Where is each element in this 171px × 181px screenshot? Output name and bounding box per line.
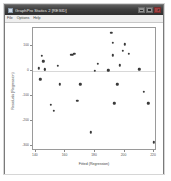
y-axis-tick <box>30 45 32 46</box>
close-button[interactable] <box>154 7 161 13</box>
y-axis-tick-label: -300 <box>22 143 29 147</box>
data-point <box>39 78 41 80</box>
data-point <box>57 64 59 66</box>
x-axis-tick-label: 140 <box>32 153 38 157</box>
data-point <box>112 54 114 56</box>
x-axis-tick-label: 180 <box>91 153 97 157</box>
window-controls <box>138 7 161 13</box>
data-point <box>110 32 112 34</box>
x-axis-title: Fitted (Regression) <box>32 162 156 166</box>
desktop-background: GraphPro Statics 2 [RESID] File Options … <box>0 0 171 181</box>
window-title: GraphPro Statics 2 [RESID] <box>15 8 138 13</box>
data-point <box>41 54 43 56</box>
x-axis-tick <box>35 150 36 152</box>
maximize-button[interactable] <box>146 7 153 13</box>
data-point <box>42 60 44 62</box>
x-axis-tick <box>94 150 95 152</box>
data-point <box>112 41 114 43</box>
data-point <box>128 53 130 55</box>
data-point <box>153 141 155 143</box>
data-point <box>50 103 52 105</box>
window-client-area: 140160180200220 -300-200-1000100 Fitted … <box>5 23 163 174</box>
x-axis-tick <box>64 150 65 152</box>
y-axis-tick <box>30 95 32 96</box>
menu-item-options[interactable]: Options <box>17 16 29 21</box>
data-point <box>76 100 78 102</box>
y-axis-title: Residuals (Regression) <box>11 61 15 121</box>
y-axis-tick <box>30 145 32 146</box>
data-point <box>116 83 118 85</box>
data-point <box>58 83 60 85</box>
plot-frame <box>32 27 156 150</box>
data-point <box>123 43 125 45</box>
x-axis-tick-label: 160 <box>62 153 68 157</box>
menu-item-file[interactable]: File <box>7 16 13 21</box>
data-point <box>79 83 81 85</box>
data-point <box>97 62 99 64</box>
menu-item-help[interactable]: Help <box>33 16 40 21</box>
minimize-button[interactable] <box>138 7 145 13</box>
data-point <box>143 91 145 93</box>
app-icon <box>8 8 13 13</box>
y-axis-tick-label: 0 <box>27 68 29 72</box>
y-axis-tick-label: -100 <box>22 93 29 97</box>
window-title-bar[interactable]: GraphPro Statics 2 [RESID] <box>5 5 163 15</box>
data-point <box>89 131 91 133</box>
x-axis-tick <box>124 150 125 152</box>
y-axis-tick-label: 100 <box>23 43 29 47</box>
y-axis-tick-label: -200 <box>22 118 29 122</box>
y-axis-tick <box>30 120 32 121</box>
data-point <box>119 64 121 66</box>
application-window: GraphPro Statics 2 [RESID] File Options … <box>4 4 164 174</box>
data-point <box>122 50 124 52</box>
data-point <box>38 67 40 69</box>
x-axis: 140160180200220 <box>32 150 156 162</box>
data-point <box>113 102 115 104</box>
data-point <box>147 102 149 104</box>
menu-bar: File Options Help <box>5 15 163 23</box>
data-point <box>52 110 54 112</box>
y-axis-tick <box>30 70 32 71</box>
x-axis-tick-label: 220 <box>150 153 156 157</box>
x-axis-tick-label: 200 <box>121 153 127 157</box>
x-axis-tick <box>153 150 154 152</box>
scatter-plot: 140160180200220 -300-200-1000100 Fitted … <box>5 23 163 174</box>
